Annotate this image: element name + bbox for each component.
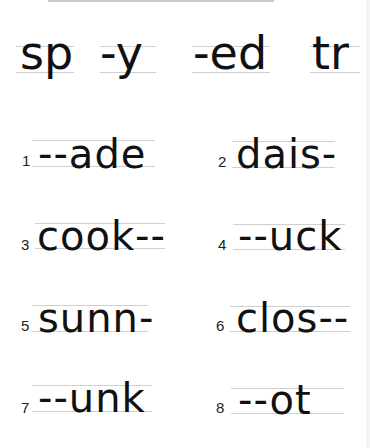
header-option-y: -y	[100, 30, 143, 76]
item-number: 2	[218, 154, 226, 169]
top-rule	[48, 0, 274, 2]
header-option-tr: tr	[312, 30, 349, 76]
item-number: 3	[21, 237, 29, 252]
item-word: clos--	[236, 298, 349, 338]
item-word: --unk	[38, 378, 146, 418]
item-word: --ade	[38, 134, 146, 174]
item-number: 5	[21, 318, 29, 333]
item-word: --uck	[238, 216, 342, 256]
item-word: --ot	[238, 380, 312, 420]
item-number: 1	[22, 153, 30, 168]
page-edge	[366, 0, 370, 448]
item-word: sunn-	[38, 298, 154, 338]
header-option-sp: sp	[20, 30, 73, 76]
item-number: 8	[216, 400, 224, 415]
item-number: 4	[218, 237, 226, 252]
item-number: 7	[21, 400, 29, 415]
header-option-ed: -ed	[193, 30, 267, 76]
item-number: 6	[216, 318, 224, 333]
item-word: dais-	[236, 134, 337, 174]
item-word: cook--	[37, 216, 166, 256]
